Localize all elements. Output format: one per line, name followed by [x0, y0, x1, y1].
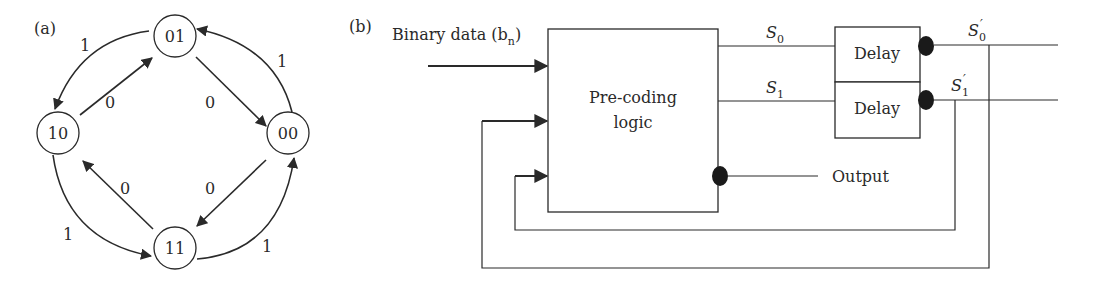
label-11-to-00: 1	[262, 237, 272, 256]
output-dot	[712, 166, 728, 186]
arrow-01-to-00	[196, 57, 266, 126]
label-01-to-00: 0	[205, 93, 215, 112]
state-00-label: 00	[278, 124, 298, 143]
state-10: 10	[37, 112, 79, 154]
arrow-11-to-00	[197, 158, 294, 259]
panel-b-label: (b)	[349, 17, 372, 36]
delay-2-output-dot	[918, 90, 934, 110]
figure-canvas: (a) 01 10 00 11 1 0 0 1	[0, 0, 1093, 283]
panel-a-label: (a)	[34, 19, 56, 38]
delay-1-output-dot	[918, 36, 934, 56]
output-label: Output	[832, 167, 889, 186]
label-00-to-01: 1	[277, 52, 287, 71]
s0-label: S0	[766, 23, 784, 46]
delay-2-label: Delay	[854, 99, 900, 118]
label-00-to-11: 0	[205, 179, 215, 198]
panel-a-state-diagram: (a) 01 10 00 11 1 0 0 1	[34, 15, 309, 269]
panel-b-block-diagram: (b) Binary data (bn) Pre-coding logic S0…	[349, 17, 1058, 268]
precoding-label-line2: logic	[613, 113, 652, 132]
state-01: 01	[154, 15, 196, 57]
state-11: 11	[154, 227, 196, 269]
state-01-label: 01	[165, 27, 185, 46]
label-11-to-10: 0	[120, 179, 130, 198]
s1-label: S1	[766, 78, 784, 101]
input-label: Binary data (bn)	[392, 25, 521, 48]
arrow-10-to-01	[80, 58, 152, 115]
label-01-to-10: 1	[80, 36, 90, 55]
s1-prime-label: S1′	[951, 73, 969, 99]
state-11-label: 11	[165, 239, 185, 258]
delay-1-label: Delay	[854, 44, 900, 63]
s0-prime-label: S0′	[968, 18, 986, 44]
label-10-to-01: 0	[105, 93, 115, 112]
state-10-label: 10	[48, 124, 68, 143]
precoding-label-line1: Pre-coding	[589, 88, 677, 107]
arrow-11-to-10	[83, 161, 153, 229]
state-00: 00	[267, 112, 309, 154]
label-10-to-11: 1	[63, 225, 73, 244]
